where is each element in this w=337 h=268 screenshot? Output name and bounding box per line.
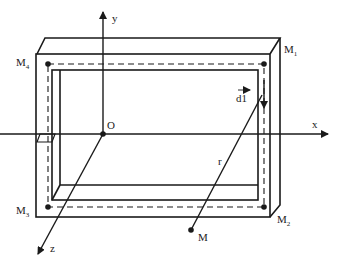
point-m-label: M: [198, 231, 208, 243]
corner-label-m3: M3: [16, 204, 30, 219]
corner-label-m4: M4: [16, 56, 30, 71]
dl-label: d1: [236, 92, 247, 104]
z-axis-label: z: [50, 242, 55, 254]
loop-diagram: y x z O M4 M1 M2 M3 M r d1: [0, 0, 337, 268]
frame-right-face: [270, 38, 280, 217]
x-axis-label: x: [312, 118, 318, 130]
corner-label-m1: M1: [284, 43, 298, 58]
y-axis-label: y: [112, 12, 118, 24]
frame-inner-slant: [52, 185, 60, 200]
frame-inner-front: [52, 70, 258, 200]
corner-dot-m3: [45, 204, 51, 210]
corner-dot-m4: [45, 61, 51, 67]
corner-dot-m1: [261, 61, 267, 67]
r-label: r: [218, 155, 222, 167]
corner-label-m2: M2: [277, 213, 291, 228]
frame-inner-back: [60, 70, 258, 185]
corner-dot-m2: [261, 204, 267, 210]
frame-top-face: [37, 38, 280, 54]
origin-label: O: [107, 119, 115, 131]
r-line: [191, 95, 262, 230]
